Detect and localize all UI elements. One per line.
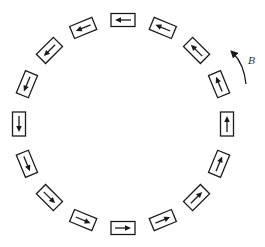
field-label: B [247, 55, 255, 66]
dipole-2 [149, 17, 176, 38]
dipole-11 [36, 184, 62, 210]
dipole-3 [183, 37, 209, 63]
dipole-12 [16, 150, 37, 177]
dipole-15 [36, 37, 62, 63]
field-arrow [233, 53, 246, 84]
dipole-ring [13, 14, 234, 235]
dipole-13 [13, 112, 26, 136]
dipole-6 [208, 150, 229, 177]
dipole-5 [221, 112, 234, 136]
dipole-14 [16, 71, 37, 98]
diagram-canvas: B [0, 0, 265, 247]
dipole-ring-diagram: B [0, 0, 265, 247]
dipole-10 [70, 209, 97, 230]
dipole-7 [183, 184, 209, 210]
dipole-1 [111, 14, 135, 27]
dipole-4 [208, 71, 229, 98]
dipole-16 [70, 17, 97, 38]
field-direction-arrow [233, 53, 246, 84]
dipole-8 [149, 209, 176, 230]
dipole-9 [111, 222, 135, 235]
